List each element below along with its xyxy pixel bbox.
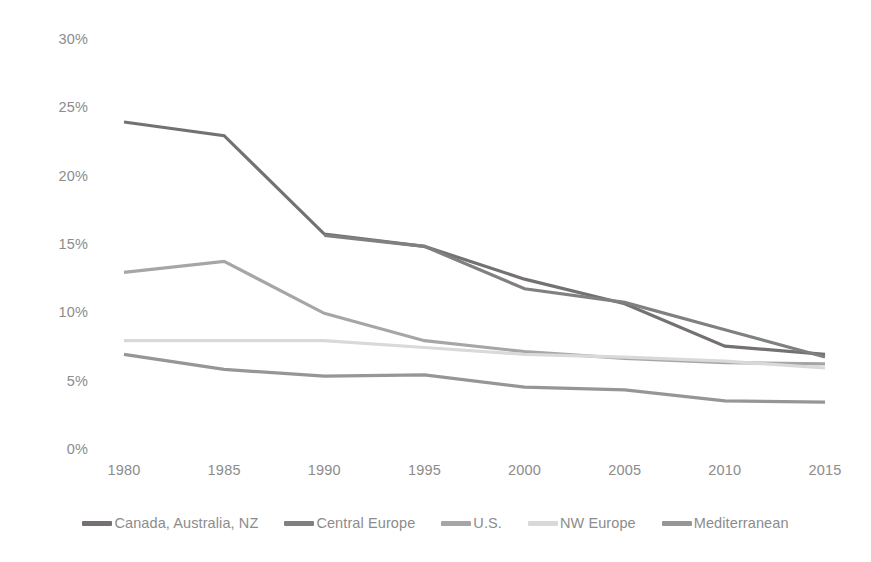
legend-item[interactable]: Canada, Australia, NZ [82,515,258,531]
series-line [124,122,825,354]
x-tick-label: 2005 [590,462,660,478]
line-chart: 30%25%20%15%10%5%0% 19801985199019952000… [0,0,871,562]
legend-label: Central Europe [316,515,415,531]
y-tick-label: 30% [28,31,88,47]
y-tick-label: 20% [28,168,88,184]
y-tick-label: 5% [28,373,88,389]
x-tick-label: 2000 [490,462,560,478]
legend-item[interactable]: U.S. [441,515,502,531]
series-line [124,261,825,364]
legend-label: NW Europe [560,515,636,531]
legend-label: Canada, Australia, NZ [114,515,258,531]
y-tick-label: 10% [28,304,88,320]
y-tick-label: 0% [28,441,88,457]
legend-swatch-icon [441,521,471,526]
legend-swatch-icon [528,521,558,526]
chart-legend: Canada, Australia, NZCentral EuropeU.S.N… [0,508,871,538]
x-tick-label: 2015 [790,462,860,478]
y-tick-label: 15% [28,236,88,252]
legend-item[interactable]: Mediterranean [662,515,789,531]
legend-item[interactable]: NW Europe [528,515,636,531]
legend-item[interactable]: Central Europe [284,515,415,531]
x-tick-label: 2010 [690,462,760,478]
legend-swatch-icon [284,521,314,526]
x-tick-label: 1985 [189,462,259,478]
x-tick-label: 1990 [289,462,359,478]
x-tick-label: 1995 [389,462,459,478]
y-tick-label: 25% [28,99,88,115]
legend-label: U.S. [473,515,502,531]
series-line [324,235,825,357]
legend-label: Mediterranean [694,515,789,531]
x-tick-label: 1980 [89,462,159,478]
legend-swatch-icon [82,521,112,526]
legend-swatch-icon [662,521,692,526]
